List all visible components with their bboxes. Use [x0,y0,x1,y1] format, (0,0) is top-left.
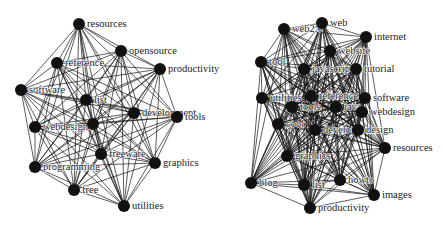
node-label-freeware: freeware [109,148,146,159]
node-howto [334,174,346,186]
node-development [309,124,321,136]
node-label-list: list [312,179,325,190]
node-internet [360,31,372,43]
node-label-tool: tool [269,56,285,67]
node-blog [245,177,257,189]
node-utilities [118,200,130,212]
node-software [15,84,27,96]
node-label-javascript: javascript [311,63,353,74]
node-label-productivity: productivity [318,202,370,213]
node-tools [171,111,183,123]
node-webdesign [29,121,41,133]
node-resources [379,142,391,154]
node-tutorial [350,63,362,75]
node-label-resources: resources [87,18,127,29]
node-tool [255,56,267,68]
node-resources [73,18,85,30]
node-productivity [304,202,316,214]
node-label-tools: tools [300,101,320,112]
node-label-productivity: productivity [168,63,220,74]
node-label-software: software [373,92,409,103]
node-label-free: free [82,184,99,195]
node-images [368,189,380,201]
node-label-utilities: utilities [270,92,302,103]
node-list [80,94,92,106]
node-label-internet: internet [374,31,406,42]
node-software [359,92,371,104]
node-label-web: web [330,17,348,28]
node-label-reference: reference [319,90,358,101]
node-javascript [298,63,310,75]
network-diagram-canvas: resourcesopensourceproductivityreference… [0,0,443,236]
node-free [68,184,80,196]
node-utilities [256,92,268,104]
node-label-design: design [366,124,394,135]
node-web2 [278,23,290,35]
node-label-software: software [29,84,65,95]
node-label-cool: cool [286,118,304,129]
node-tools [286,101,298,113]
node-label-reference: reference [65,57,104,68]
node-graphics [149,157,161,169]
node-opensource [115,45,127,57]
node-label-tools: tools [185,111,205,122]
node-web [316,17,328,29]
edge [35,24,79,127]
node-label-utilities: utilities [132,200,164,211]
node-label-blog: blog [259,177,278,188]
node-label-images: images [382,189,412,200]
node-label-graphics: graphics [295,150,331,161]
node-label-webdesign: webdesign [43,121,89,132]
node-webdesign [356,106,368,118]
node-label-resources: resources [393,142,433,153]
node-label-webdesign: webdesign [370,106,416,117]
node-label-tutorial: tutorial [364,63,394,74]
node-freeware [95,148,107,160]
node-label-website: website [338,45,370,56]
node-design [352,124,364,136]
node-programming [29,161,41,173]
node-design [87,118,99,130]
node-productivity [154,63,166,75]
node-java [330,101,342,113]
node-development [128,107,140,119]
node-cool [272,118,284,130]
node-list [298,179,310,191]
node-label-graphics: graphics [163,157,199,168]
node-label-opensource: opensource [129,45,177,56]
node-label-list: list [94,94,107,105]
node-label-howto: howto [348,174,374,185]
node-reference [51,57,63,69]
node-graphics [281,150,293,162]
node-label-programming: programming [43,161,101,172]
node-website [324,45,336,57]
